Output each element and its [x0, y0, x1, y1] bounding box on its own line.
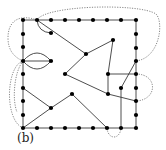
vertex [134, 126, 138, 130]
vertex [21, 126, 25, 130]
straight-edges [23, 20, 136, 128]
edge [86, 40, 113, 54]
vertex [49, 126, 53, 130]
dotted-curve [136, 74, 153, 101]
vertex [134, 32, 138, 36]
dotted-curve [8, 18, 37, 61]
vertex [21, 45, 25, 49]
vertex [49, 106, 53, 110]
vertex [134, 46, 138, 50]
vertex [63, 126, 67, 130]
curved-edges [23, 20, 51, 69]
edge [65, 54, 86, 74]
vertex [134, 113, 138, 117]
graph-diagram [0, 0, 166, 150]
vertex [77, 18, 81, 22]
vertex [106, 92, 110, 96]
dotted-curve [9, 61, 23, 128]
edge [72, 94, 107, 128]
vertex [77, 126, 81, 130]
vertex [49, 31, 53, 35]
dotted-curve [107, 128, 121, 137]
vertex [63, 72, 67, 76]
vertex [21, 59, 25, 63]
figure-label: (b) [17, 131, 34, 145]
curved-edge [23, 61, 51, 69]
vertex [35, 126, 39, 130]
vertex [84, 52, 88, 56]
vertex [49, 59, 53, 63]
vertex [134, 99, 138, 103]
vertex [91, 126, 95, 130]
vertex [111, 38, 115, 42]
curved-edge [23, 53, 51, 61]
edge [23, 108, 51, 128]
vertex [49, 18, 53, 22]
vertex [106, 72, 110, 76]
vertex [21, 99, 25, 103]
dotted-curve [37, 7, 160, 61]
vertex [70, 92, 74, 96]
vertex [21, 72, 25, 76]
vertex [134, 59, 138, 63]
vertex [119, 126, 123, 130]
vertex [63, 18, 67, 22]
vertex [134, 18, 138, 22]
vertex [134, 72, 138, 76]
edge [23, 88, 51, 108]
vertex [21, 86, 25, 90]
edge [37, 20, 86, 54]
vertex [134, 86, 138, 90]
dotted-curves [8, 7, 160, 137]
edge [65, 74, 108, 94]
vertex [91, 18, 95, 22]
vertex [21, 32, 25, 36]
vertex [35, 18, 39, 22]
vertex [21, 18, 25, 22]
vertex [105, 126, 109, 130]
vertex [119, 18, 123, 22]
vertex [21, 113, 25, 117]
edge [121, 61, 136, 88]
edge [51, 94, 72, 108]
vertex [119, 86, 123, 90]
vertex [105, 18, 109, 22]
edge [108, 94, 136, 101]
edge [108, 40, 113, 74]
